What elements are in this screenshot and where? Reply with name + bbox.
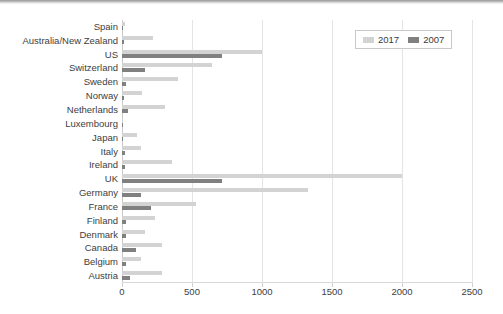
bar-2007: [122, 96, 124, 100]
category-label: Australia/New Zealand: [22, 35, 118, 46]
bar-group: [122, 158, 472, 172]
bar-2007: [122, 68, 145, 72]
legend-swatch-2007: [408, 37, 419, 43]
bar-group: [122, 131, 472, 145]
plot-area: [122, 20, 472, 283]
category-axis-labels: SpainAustralia/New ZealandUSSwitzerlandS…: [0, 20, 122, 283]
bar-group: [122, 186, 472, 200]
x-axis-tick-mark: [262, 283, 263, 287]
category-label: Canada: [85, 242, 118, 253]
bar-2007: [122, 26, 123, 30]
bar-2007: [122, 220, 126, 224]
bar-2007: [122, 179, 222, 183]
x-axis-tick-mark: [472, 283, 473, 287]
bar-2007: [122, 206, 151, 210]
bar-2007: [122, 151, 125, 155]
category-label: Finland: [87, 215, 118, 226]
bar-2007: [122, 40, 124, 44]
bar-2017: [122, 160, 172, 164]
bar-2007: [122, 123, 123, 127]
x-axis-tick-mark: [332, 283, 333, 287]
bar-group: [122, 75, 472, 89]
bar-group: [122, 145, 472, 159]
x-axis-tick-labels: 05001000150020002500: [0, 286, 503, 302]
bar-2017: [122, 202, 196, 206]
bar-2007: [122, 82, 126, 86]
bar-2017: [122, 146, 141, 150]
bar-2017: [122, 174, 402, 178]
category-label: US: [105, 49, 118, 60]
x-axis-tick-label: 1500: [321, 286, 342, 297]
x-axis-tick-mark: [122, 283, 123, 287]
bar-2017: [122, 243, 162, 247]
bar-2007: [122, 276, 130, 280]
legend-label-2007: 2007: [423, 34, 444, 45]
bar-group: [122, 228, 472, 242]
category-label: Italy: [101, 146, 118, 157]
legend-swatch-2017: [363, 37, 374, 43]
bar-2017: [122, 50, 262, 54]
bar-2007: [122, 262, 126, 266]
category-label: Denmark: [79, 229, 118, 240]
category-label: Norway: [86, 90, 118, 101]
bar-2017: [122, 22, 125, 26]
bar-2007: [122, 193, 141, 197]
bar-2017: [122, 77, 178, 81]
bar-2017: [122, 230, 145, 234]
category-label: Spain: [94, 21, 118, 32]
x-axis-tick-label: 1000: [251, 286, 272, 297]
bar-2007: [122, 248, 136, 252]
bar-group: [122, 62, 472, 76]
category-label: Switzerland: [69, 62, 118, 73]
category-label: Japan: [92, 132, 118, 143]
bar-2007: [122, 54, 222, 58]
category-label: Germany: [79, 187, 118, 198]
bar-chart: SpainAustralia/New ZealandUSSwitzerlandS…: [0, 0, 503, 314]
bar-2007: [122, 165, 125, 169]
bar-2017: [122, 188, 308, 192]
category-label: Belgium: [84, 256, 118, 267]
category-label: UK: [105, 173, 118, 184]
category-label: Luxembourg: [65, 118, 118, 129]
bar-group: [122, 48, 472, 62]
bar-2017: [122, 271, 162, 275]
bar-2017: [122, 119, 123, 123]
legend-label-2017: 2017: [378, 34, 399, 45]
bar-group: [122, 117, 472, 131]
bar-group: [122, 214, 472, 228]
bar-group: [122, 241, 472, 255]
bar-group: [122, 89, 472, 103]
bar-2017: [122, 257, 141, 261]
bar-2017: [122, 216, 155, 220]
category-label: Netherlands: [67, 104, 118, 115]
x-axis-tick-label: 500: [184, 286, 200, 297]
x-axis-tick-label: 2000: [391, 286, 412, 297]
x-axis-tick-mark: [192, 283, 193, 287]
category-label: Sweden: [84, 76, 118, 87]
x-axis-tick-label: 0: [119, 286, 124, 297]
x-axis-tick-label: 2500: [461, 286, 482, 297]
chart-legend: 2017 2007: [355, 30, 452, 49]
bar-2007: [122, 137, 123, 141]
x-axis-tick-mark: [402, 283, 403, 287]
bar-2017: [122, 91, 142, 95]
bar-2017: [122, 63, 212, 67]
bar-2017: [122, 105, 165, 109]
legend-item-2007: 2007: [408, 34, 444, 45]
legend-item-2017: 2017: [363, 34, 399, 45]
bar-group: [122, 269, 472, 283]
bar-group: [122, 255, 472, 269]
bar-2017: [122, 36, 153, 40]
bar-group: [122, 172, 472, 186]
category-label: Ireland: [89, 159, 118, 170]
category-label: France: [88, 201, 118, 212]
category-label: Austria: [88, 270, 118, 281]
bar-2007: [122, 234, 126, 238]
bar-group: [122, 103, 472, 117]
bar-2017: [122, 133, 137, 137]
bar-2007: [122, 109, 128, 113]
gridline: [472, 20, 473, 283]
bar-group: [122, 200, 472, 214]
